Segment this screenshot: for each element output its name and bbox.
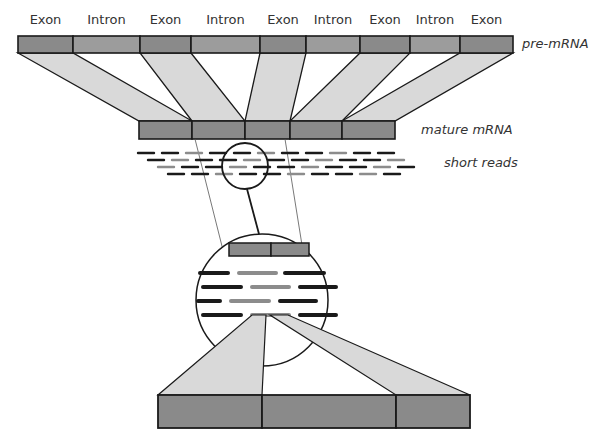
exon-projection bbox=[245, 53, 306, 121]
exon-segment bbox=[140, 36, 191, 53]
segment-label-intron: Intron bbox=[314, 12, 352, 27]
exon-segment bbox=[260, 36, 306, 53]
bottom-bar-segment bbox=[396, 395, 470, 428]
bottom-projection-right bbox=[270, 315, 470, 395]
mature-exon-segment bbox=[139, 121, 192, 139]
short-reads-label: short reads bbox=[444, 155, 518, 170]
segment-label-exon: Exon bbox=[369, 12, 401, 27]
intron-segment bbox=[306, 36, 360, 53]
segment-label-intron: Intron bbox=[206, 12, 244, 27]
inner-exon-left bbox=[229, 243, 271, 256]
mature-exon-segment bbox=[245, 121, 290, 139]
pre-mrna-bar bbox=[18, 36, 513, 53]
segment-label-exon: Exon bbox=[30, 12, 62, 27]
exon-segment bbox=[460, 36, 513, 53]
mature-exon-segment bbox=[342, 121, 395, 139]
segment-label-exon: Exon bbox=[267, 12, 299, 27]
rna-seq-diagram bbox=[0, 0, 612, 445]
intron-segment bbox=[410, 36, 460, 53]
intron-segment bbox=[73, 36, 140, 53]
mature-mrna-bar bbox=[139, 121, 395, 139]
mature-mrna-label: mature mRNA bbox=[421, 122, 513, 137]
inner-exon-right bbox=[271, 243, 309, 256]
segment-label-exon: Exon bbox=[150, 12, 182, 27]
exon-segment bbox=[18, 36, 73, 53]
mature-exon-segment bbox=[192, 121, 245, 139]
exon-projections bbox=[18, 53, 513, 121]
segment-label-exon: Exon bbox=[471, 12, 503, 27]
pre-mrna-label: pre-mRNA bbox=[522, 36, 589, 51]
segment-label-intron: Intron bbox=[87, 12, 125, 27]
short-reads bbox=[138, 153, 414, 174]
exon-segment bbox=[360, 36, 410, 53]
bottom-bar-segment bbox=[262, 395, 396, 428]
segment-label-intron: Intron bbox=[416, 12, 454, 27]
intron-segment bbox=[191, 36, 260, 53]
magnifier-connector bbox=[247, 189, 259, 234]
mature-exon-segment bbox=[290, 121, 342, 139]
bottom-bar-segment bbox=[158, 395, 262, 428]
